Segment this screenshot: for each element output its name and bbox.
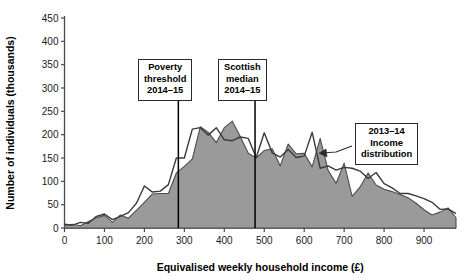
annotation-median-line2: median <box>224 74 261 86</box>
annotation-poverty-line2: threshold <box>144 74 186 86</box>
y-tick-label: 150 <box>42 153 59 164</box>
x-tick-label: 300 <box>176 235 193 246</box>
y-tick-label: 400 <box>42 36 59 47</box>
y-axis-title: Number of individuals (thousands) <box>4 36 16 209</box>
y-tick-label: 200 <box>42 129 59 140</box>
y-tick-label: 100 <box>42 176 59 187</box>
x-tick-label: 700 <box>336 235 353 246</box>
annotation-median-line3: 2014–15 <box>224 85 261 97</box>
x-axis-title: Equivalised weekly household income (£) <box>157 261 364 273</box>
x-tick-label: 600 <box>296 235 313 246</box>
chart-container: 0501001502002503003504004500100200300400… <box>0 0 466 280</box>
annotation-dist-line1: 2013–14 <box>361 126 412 138</box>
y-tick-label: 50 <box>47 199 59 210</box>
annotation-dist-line2: Income <box>361 138 412 150</box>
x-tick-label: 500 <box>256 235 273 246</box>
y-tick-label: 250 <box>42 106 59 117</box>
annotation-income-distribution: 2013–14 Income distribution <box>355 123 418 165</box>
x-tick-label: 100 <box>96 235 113 246</box>
annotation-poverty-line3: 2014–15 <box>144 85 186 97</box>
x-tick-label: 200 <box>136 235 153 246</box>
annotation-dist-line3: distribution <box>361 149 412 161</box>
annotation-poverty-line1: Poverty <box>144 62 186 74</box>
x-tick-label: 900 <box>416 235 433 246</box>
y-tick-label: 450 <box>42 13 59 24</box>
x-tick-label: 800 <box>376 235 393 246</box>
annotation-scottish-median: Scottish median 2014–15 <box>218 59 267 101</box>
x-tick-label: 400 <box>216 235 233 246</box>
annotation-poverty-threshold: Poverty threshold 2014–15 <box>138 59 192 101</box>
y-tick-label: 350 <box>42 59 59 70</box>
y-tick-label: 0 <box>53 223 59 234</box>
annotation-median-line1: Scottish <box>224 62 261 74</box>
y-tick-label: 300 <box>42 83 59 94</box>
x-tick-label: 0 <box>62 235 68 246</box>
